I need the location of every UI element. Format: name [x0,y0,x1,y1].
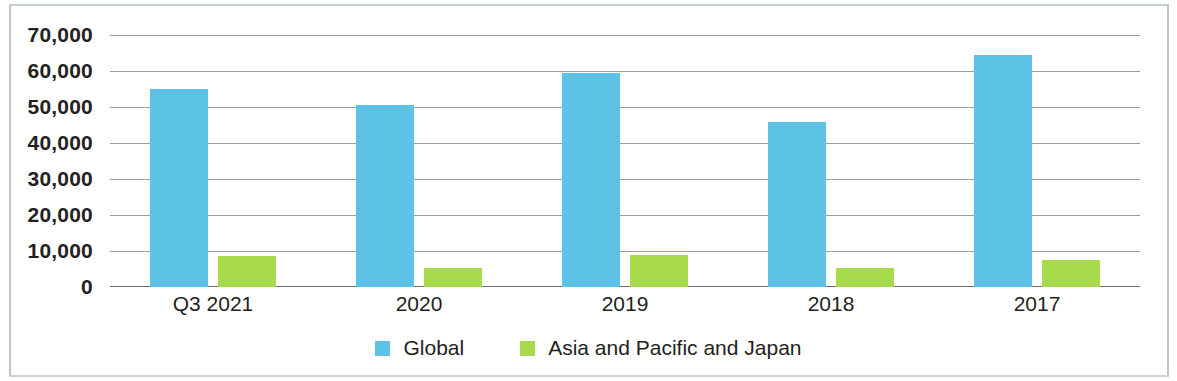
y-axis-tick-label: 70,000 [0,23,93,47]
y-axis-tick-label: 30,000 [0,167,93,191]
y-axis-tick-label: 20,000 [0,203,93,227]
y-axis-tick-value: 60,000 [0,59,93,83]
legend-item[interactable]: Global [375,336,464,360]
x-axis-category-labels: Q3 20212020201920182017 [110,292,1140,316]
legend-label: Global [403,336,464,360]
chart-legend: GlobalAsia and Pacific and Japan [0,336,1177,360]
figure-border-top [9,4,1169,6]
bar-group [934,35,1140,287]
y-axis-tick-value: 30,000 [0,167,93,191]
x-axis-category-label: 2020 [316,292,522,316]
figure-border-right [1167,4,1169,377]
figure-border-bottom [9,375,1169,377]
bar-group [316,35,522,287]
y-axis-tick-label: 10,000 [0,239,93,263]
bar-chart-figure: 70,00060,00050,00040,00030,00020,00010,0… [0,0,1177,381]
x-axis-category-label: Q3 2021 [110,292,316,316]
y-axis-tick-value: 50,000 [0,95,93,119]
y-axis-tick-value: 70,000 [0,23,93,47]
bar-global[interactable] [150,89,208,287]
legend-swatch-blue-icon [375,341,390,356]
y-axis-tick-value: 10,000 [0,239,93,263]
bar-global[interactable] [974,55,1032,287]
y-axis-tick-label: 60,000 [0,59,93,83]
y-axis-tick-value: 20,000 [0,203,93,227]
bar-asia-pacific-japan[interactable] [424,268,482,287]
bar-asia-pacific-japan[interactable] [836,268,894,287]
bar-groups [110,35,1140,287]
bar-group [110,35,316,287]
legend-swatch-green-icon [520,341,535,356]
plot-area: 70,00060,00050,00040,00030,00020,00010,0… [110,35,1140,287]
bar-asia-pacific-japan[interactable] [1042,260,1100,287]
bar-group [728,35,934,287]
x-axis-category-label: 2017 [934,292,1140,316]
y-axis-tick-value: 0 [0,275,93,299]
y-axis-tick-label: 0 [0,275,93,299]
bar-group [522,35,728,287]
y-axis-tick-value: 40,000 [0,131,93,155]
bar-global[interactable] [562,73,620,287]
legend-item[interactable]: Asia and Pacific and Japan [520,336,801,360]
x-axis-category-label: 2018 [728,292,934,316]
bar-global[interactable] [768,122,826,287]
y-axis-tick-label: 40,000 [0,131,93,155]
x-axis-category-label: 2019 [522,292,728,316]
bar-asia-pacific-japan[interactable] [218,256,276,287]
y-axis-tick-label: 50,000 [0,95,93,119]
bar-global[interactable] [356,105,414,287]
legend-label: Asia and Pacific and Japan [548,336,801,360]
bar-asia-pacific-japan[interactable] [630,255,688,287]
